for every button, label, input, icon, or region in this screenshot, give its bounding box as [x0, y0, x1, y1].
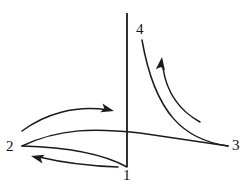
node-label-4: 4: [136, 22, 144, 37]
node-label-3: 3: [232, 138, 240, 153]
diagram-canvas: [0, 0, 251, 191]
state-transition-diagram: 1 2 3 4: [0, 0, 251, 191]
transition-arrow-rightward-curve: [22, 109, 108, 131]
transition-arrow-upward-curve: [163, 68, 200, 122]
node-label-2: 2: [6, 139, 14, 154]
node-label-1: 1: [123, 168, 131, 183]
state-path-3-4: [142, 40, 228, 146]
state-path-2-3: [22, 130, 228, 146]
arrow-head-up-icon: [156, 56, 167, 70]
